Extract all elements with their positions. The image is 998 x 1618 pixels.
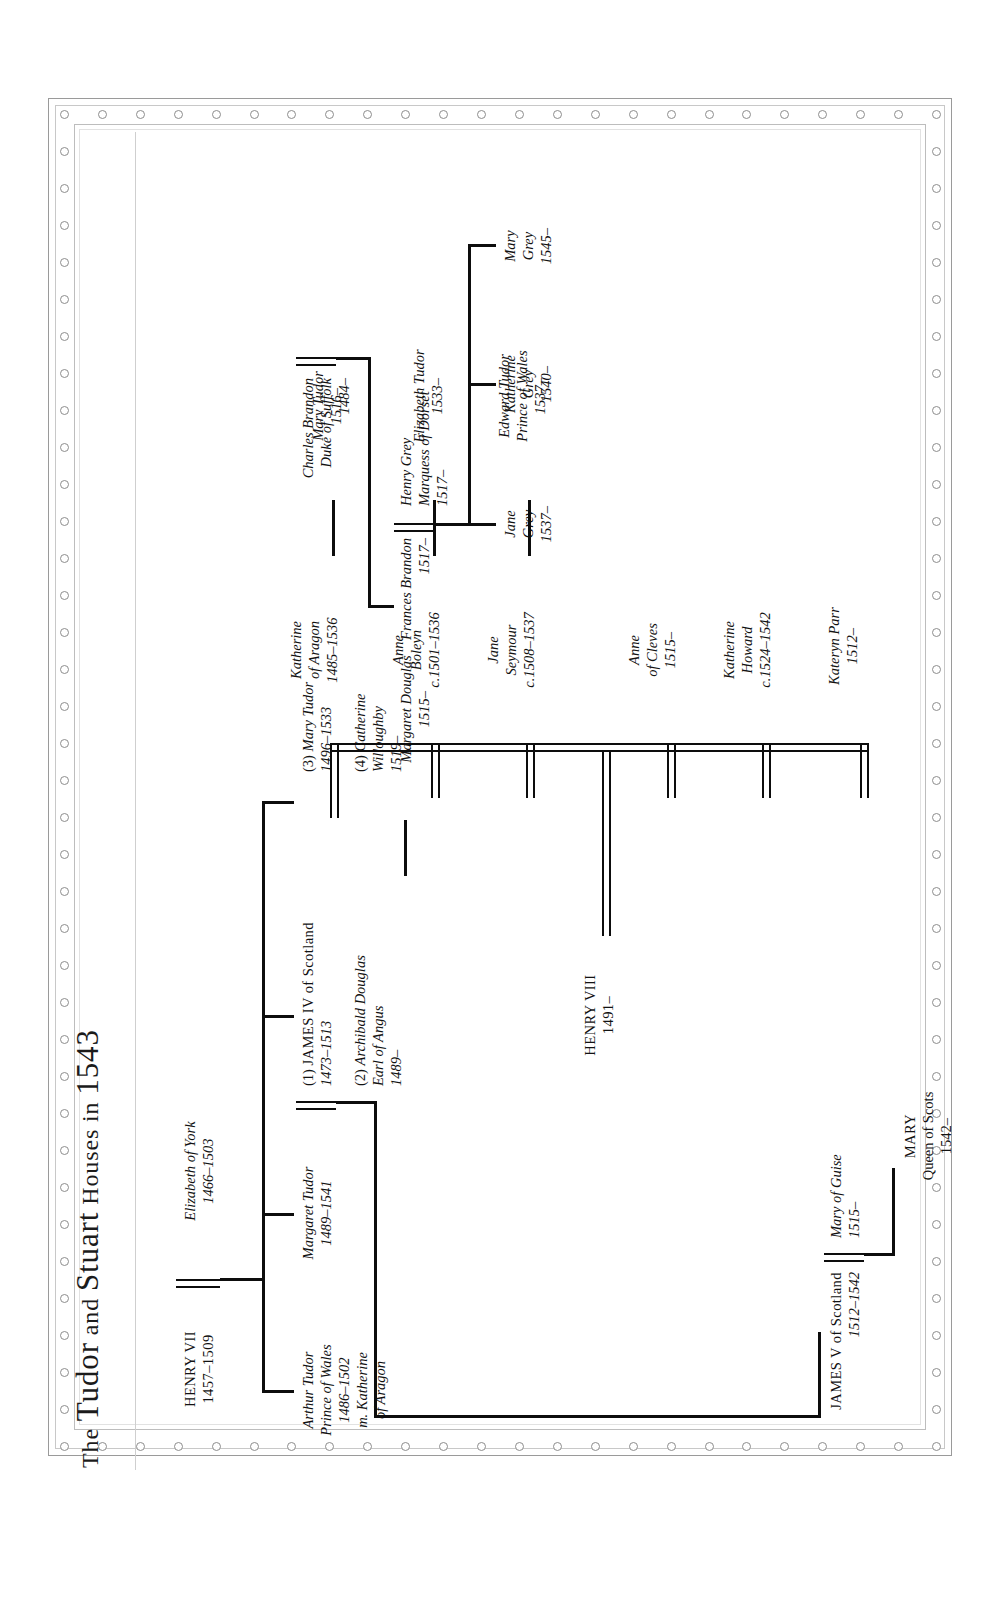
person-elizabeth-tudor: Elizabeth Tudor 1533– <box>411 298 447 494</box>
line-grey-descent-drop <box>434 523 470 526</box>
person-katherine-howard: Katherine Howard c.1524–1542 <box>721 566 775 734</box>
elizabeth-york-dates: 1466–1503 <box>200 1076 218 1266</box>
catherine-willoughby-prefix: (4) <box>352 751 368 772</box>
line-stem-marytudor <box>262 801 294 804</box>
katherine-aragon-line2: of Aragon <box>306 566 324 734</box>
henry-viii-dates: 1491– <box>600 942 618 1088</box>
mary-queen-scots-name: MARY <box>902 1036 920 1236</box>
mary-queen-scots-dates: 1542– <box>938 1036 956 1236</box>
line-stub-anne-boleyn-b <box>438 744 440 798</box>
line-child-edward-tudor <box>528 500 531 556</box>
elizabeth-tudor-name: Elizabeth Tudor <box>411 298 429 494</box>
mary-tudor-daughter-dates: 1516– <box>328 318 346 494</box>
line-stub-katherine-aragon-b <box>337 744 339 818</box>
james-v-dates: 1512–1542 <box>846 1272 864 1522</box>
person-henry-vii: HENRY VII 1457–1509 <box>182 1294 218 1444</box>
line-henryvii-children-bar <box>262 801 265 1393</box>
line-margaret-douglas-connector <box>404 820 407 876</box>
person-katherine-of-aragon: Katherine of Aragon 1485–1536 <box>288 566 342 734</box>
anne-boleyn-dates: c.1501–1536 <box>426 566 444 734</box>
anne-boleyn-name: Anne <box>390 566 408 734</box>
archibald-dates: 1489– <box>388 856 406 1086</box>
line-stub-jane-seymour-b <box>533 744 535 798</box>
line-henryviii-trunk-rail-b <box>609 750 611 936</box>
katherine-howard-dates: c.1524–1542 <box>757 566 775 734</box>
anne-cleves-name: Anne <box>626 566 644 734</box>
chart-page: The Tudor and Stuart Houses in 1543 HENR… <box>0 0 998 1618</box>
line-stub-katherine-aragon-a <box>330 744 332 818</box>
line-henryviii-trunk-rail-a <box>602 750 604 936</box>
elizabeth-york-name: Elizabeth of York <box>182 1076 200 1266</box>
margaret-name: Margaret Tudor <box>300 1118 318 1308</box>
person-james-iv: (1) JAMES IV of Scotland 1473–1513 <box>300 836 336 1086</box>
person-henry-viii: HENRY VIII 1491– <box>582 942 618 1088</box>
line-stem-arthur <box>262 1390 294 1393</box>
line-henryvii-descent-drop <box>220 1278 264 1281</box>
line-stub-anne-cleves-b <box>674 744 676 798</box>
title-stuart: Stuart <box>70 1212 105 1291</box>
marriage-bar-james-v <box>824 1246 864 1262</box>
title-the: The <box>77 1421 103 1468</box>
jane-seymour-name: Jane <box>485 566 503 734</box>
line-stub-kateryn-parr-b <box>867 744 869 798</box>
james-iv-dates: 1473–1513 <box>318 836 336 1086</box>
person-mary-of-guise: Mary of Guise 1515– <box>828 1028 864 1238</box>
line-wives-spine-rail-b <box>330 743 611 745</box>
archibald-title: Earl of Angus <box>370 856 388 1086</box>
kateryn-parr-name: Kateryn Parr <box>826 558 844 734</box>
line-stem-jane-grey <box>468 523 496 526</box>
kateryn-parr-dates: 1512– <box>844 558 862 734</box>
henry-vii-dates: 1457–1509 <box>200 1294 218 1444</box>
line-stem-mary-grey <box>468 244 496 247</box>
person-margaret-tudor: Margaret Tudor 1489–1541 <box>300 1118 336 1308</box>
anne-cleves-line2: of Cleves <box>644 566 662 734</box>
edward-tudor-dates: 1537– <box>532 298 550 494</box>
person-anne-of-cleves: Anne of Cleves 1515– <box>626 566 680 734</box>
line-wives-spine-rail-a <box>330 750 611 752</box>
person-james-v: JAMES V of Scotland 1512–1542 <box>828 1272 864 1522</box>
line-stem-james-v <box>374 1415 820 1418</box>
person-archibald-douglas: (2) Archibald Douglas Earl of Angus 1489… <box>352 856 406 1086</box>
marriage-bar-margaret-tudor <box>296 1094 336 1110</box>
title-year: 1543 <box>70 1029 105 1095</box>
elizabeth-tudor-dates: 1533– <box>429 298 447 494</box>
mary-grey-name: Mary <box>502 174 520 318</box>
mary-guise-name: Mary of Guise <box>828 1028 846 1238</box>
marriage-bar-frances-brandon <box>394 516 434 532</box>
katherine-aragon-name: Katherine <box>288 566 306 734</box>
catherine-willoughby-line2: Willoughby <box>370 552 388 772</box>
line-brandon-children-bar <box>368 357 371 608</box>
henry-viii-name: HENRY VIII <box>582 942 600 1088</box>
line-james-v-entry <box>818 1332 821 1418</box>
anne-cleves-dates: 1515– <box>662 566 680 734</box>
anne-boleyn-line2: Boleyn <box>408 566 426 734</box>
line-wives-spine-extension-b <box>609 743 869 745</box>
jane-seymour-dates: c.1508–1537 <box>521 566 539 734</box>
person-anne-boleyn: Anne Boleyn c.1501–1536 <box>390 566 444 734</box>
line-stub-katherine-howard-b <box>769 744 771 798</box>
mary-tudor-daughter-name: Mary Tudor <box>310 318 328 494</box>
line-stub-kateryn-parr-a <box>860 744 862 798</box>
katherine-aragon-dates: 1485–1536 <box>324 566 342 734</box>
arthur-name: Arthur Tudor <box>300 1292 318 1488</box>
line-stub-katherine-howard-a <box>762 744 764 798</box>
title-in: in <box>77 1095 103 1122</box>
katherine-howard-name: Katherine <box>721 566 739 734</box>
line-stub-anne-cleves-a <box>667 744 669 798</box>
arthur-title: Prince of Wales <box>318 1292 336 1488</box>
arthur-dates: 1486–1502 <box>336 1292 354 1488</box>
james-v-name: JAMES V of Scotland <box>828 1272 844 1410</box>
edward-tudor-title: Prince of Wales <box>514 298 532 494</box>
mary-grey-dates: 1545– <box>538 174 556 318</box>
person-elizabeth-of-york: Elizabeth of York 1466–1503 <box>182 1076 218 1266</box>
james-iv-name: JAMES IV of Scotland <box>300 922 316 1065</box>
mary-grey-surname: Grey <box>520 174 538 318</box>
jane-seymour-line2: Seymour <box>503 566 521 734</box>
mary-guise-dates: 1515– <box>846 1028 864 1238</box>
mary-tudor-sister-prefix: (3) <box>300 751 316 772</box>
line-stem-margaret <box>262 1213 294 1216</box>
line-james-v-descent-drop <box>864 1253 894 1256</box>
margaret-dates: 1489–1541 <box>318 1118 336 1308</box>
person-mary-grey: Mary Grey 1545– <box>502 174 556 318</box>
katherine-howard-line2: Howard <box>739 566 757 734</box>
